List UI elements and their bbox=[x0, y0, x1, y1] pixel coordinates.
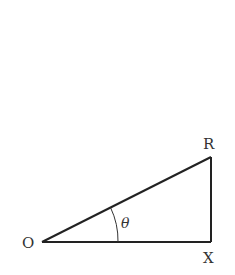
angle-arc bbox=[111, 208, 119, 243]
vertex-label-o: O bbox=[22, 234, 34, 252]
angle-label-theta: θ bbox=[121, 215, 130, 231]
vertex-label-x: X bbox=[203, 249, 214, 267]
vertex-label-r: R bbox=[203, 135, 215, 153]
triangle-diagram: O R X θ bbox=[0, 0, 235, 275]
